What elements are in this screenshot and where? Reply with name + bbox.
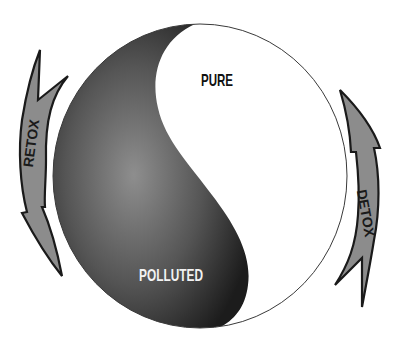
pure-label: PURE — [201, 71, 233, 90]
polluted-label: POLLUTED — [139, 266, 203, 285]
yin-yang-circle — [40, 10, 347, 340]
detox-retox-diagram: RETOX DETOX PURE POLLUTED — [0, 0, 402, 342]
